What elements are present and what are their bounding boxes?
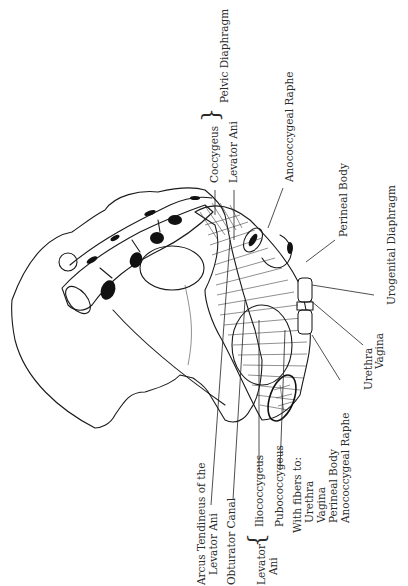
obturator-foramen: [140, 246, 204, 290]
label-fiber-anococcygeal-raphe: Anococcygeal Raphe: [339, 412, 351, 533]
label-levator-line1: Levator: [255, 544, 267, 585]
label-urogenital-diaphragm: Urogenital Diaphragm: [385, 185, 397, 305]
label-pelvic-diaphragm: Pelvic Diaphragm: [218, 9, 230, 103]
label-fiber-perineal-body: Perineal Body: [327, 412, 339, 533]
label-obturator-canal: Obturator Canal: [225, 498, 237, 585]
vagina-block: [298, 310, 312, 334]
brace-pelvic-diaphragm: }: [205, 108, 217, 122]
label-fiber-vagina: Vagina: [315, 412, 327, 533]
label-pubococcygeus: Pubococcygeus: [273, 445, 285, 527]
label-arcus-line2: Levator Ani: [207, 463, 219, 585]
label-arcus-line1: Arcus Tendineus of the: [195, 463, 207, 585]
label-arcus-tendineus: Arcus Tendineus of the Levator Ani: [195, 463, 219, 585]
label-fibers-list: With fibers to: Urethra Vagina Perineal …: [291, 412, 351, 533]
label-anococcygeal-raphe: Anococcygeal Raphe: [283, 71, 295, 182]
label-levator-ani-top: Levator Ani: [227, 121, 239, 183]
label-perineal-body: Perineal Body: [337, 163, 349, 237]
label-vagina: Vagina: [373, 333, 385, 369]
brace-levator-ani: {: [251, 533, 263, 547]
urethra-block: [298, 278, 312, 302]
label-levator-ani-group: Levator Ani: [255, 544, 279, 585]
hip-bone-outline: [12, 188, 262, 428]
label-iliococcygeus: Iliococcygeus: [253, 455, 265, 527]
label-fiber-urethra: Urethra: [303, 412, 315, 533]
label-coccygeus: Coccygeus: [208, 126, 220, 183]
label-levator-line2: Ani: [267, 544, 279, 585]
label-fibers-heading: With fibers to:: [291, 412, 303, 533]
